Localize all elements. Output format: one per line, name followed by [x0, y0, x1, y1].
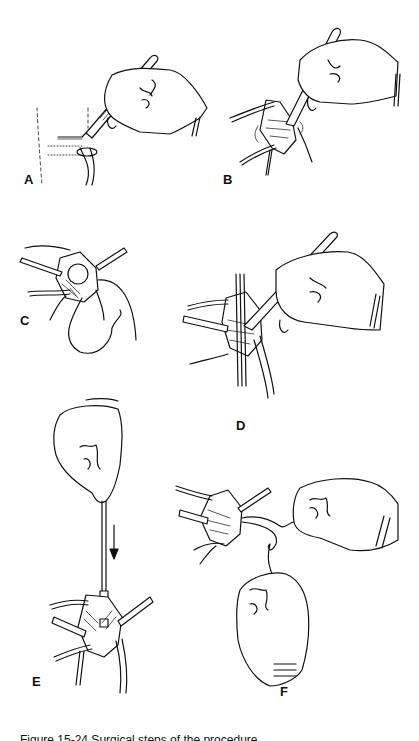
figure-page: A B: [0, 0, 419, 741]
scalpel-hand-illustration-a: [0, 0, 210, 200]
panel-label-c: C: [20, 313, 29, 328]
panel-label-f: F: [280, 684, 288, 699]
panel-a: A: [0, 0, 210, 200]
panel-e: E: [0, 395, 170, 695]
panel-label-b: B: [223, 172, 232, 187]
panel-f: F: [170, 460, 419, 710]
panel-label-a: A: [24, 172, 33, 187]
scalpel-incision-illustration-d: [180, 230, 419, 450]
retracted-wound-suture-illustration-c: [0, 240, 200, 380]
panel-c: C: [0, 240, 200, 380]
instrument-insertion-illustration-e: [0, 395, 170, 695]
panel-label-e: E: [32, 674, 41, 689]
suture-tying-illustration-f: [170, 460, 419, 710]
panel-b: B: [200, 0, 419, 200]
panel-d: D: [180, 230, 419, 450]
panel-label-d: D: [236, 418, 245, 433]
scalpel-wound-illustration-b: [200, 0, 419, 200]
figure-caption: Figure 15-24 Surgical steps of the proce…: [20, 733, 257, 741]
